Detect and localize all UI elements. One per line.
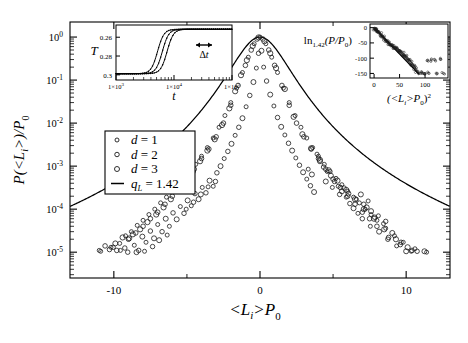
inset-left-point [162,64,163,65]
inset-left-point [199,29,200,30]
inset-left-point [166,52,167,53]
inset-right-x-tick-label: 0 [372,81,376,89]
inset-left-point [176,30,177,31]
inset-left-point [211,29,212,30]
x-tick-label: -10 [107,284,122,296]
inset-left-point [227,29,228,30]
inset-left-y-tick-label: 0.3 [103,72,112,80]
data-point [259,48,264,53]
data-point [301,170,306,175]
data-point [262,65,266,69]
inset-right-y-tick-label: -150 [355,70,367,77]
data-point [233,133,237,137]
data-point [357,201,361,205]
y-tick-label: 100 [49,30,64,43]
inset-left-point [184,29,185,30]
inset-left-point [156,71,157,72]
inset-left-point [168,30,169,31]
data-point [198,192,203,197]
inset-left-point [186,29,187,30]
inset-left-point [164,43,165,44]
inset-left-point [150,73,151,74]
inset-left-point [134,73,135,74]
data-point [229,141,234,146]
inset-left-point [156,54,157,55]
inset-left-point [213,29,214,30]
inset-right-x-tick-label: 100 [420,81,431,89]
data-point [206,185,210,189]
inset-left-point [158,70,159,71]
inset-left-point [119,73,120,74]
data-point [264,79,269,84]
inset-left-point [209,29,210,30]
inset-left-point [207,29,208,30]
data-point [299,125,303,129]
inset-left-point [115,73,116,74]
inset-left-point [203,29,204,30]
inset-left-point [148,71,149,72]
data-point [251,80,256,85]
data-point [254,66,258,70]
inset-left-point [217,29,218,30]
inset-left-point [172,30,173,31]
inset-left-y-tick-label: 0.28 [100,53,113,61]
y-tick-label: 10-4 [46,202,63,215]
y-tick-label: 10-2 [46,116,63,129]
data-point [200,185,204,189]
inset-left-point [138,73,139,74]
data-point [309,172,314,177]
data-point [290,148,295,153]
inset-left-point [197,29,198,30]
data-point [240,116,245,121]
inset-left-point [219,29,220,30]
inset-right-x-axis-label: (<Li>P0)2 [387,92,432,107]
data-point [141,224,146,229]
data-point [218,164,223,169]
data-point [138,227,143,232]
inset-left-point [164,59,165,60]
inset-left-point [150,69,151,70]
data-point [165,233,169,237]
data-point [294,156,298,160]
data-point [170,194,175,199]
data-point [362,202,367,207]
data-point [360,216,365,221]
data-point [375,224,380,229]
inset-left-point [160,41,161,42]
data-point [358,192,363,197]
inset-left-annotation: Δt [199,49,208,60]
data-point [159,201,163,205]
data-point [132,243,136,247]
data-point [312,190,317,195]
data-point [178,205,182,209]
data-point [286,141,291,146]
data-point [323,179,328,184]
data-point [191,200,196,205]
inset-left-point [166,38,167,39]
legend-label: d = 1 [131,132,158,147]
data-point [140,234,145,239]
inset-left-y-tick-label: 0.26 [100,34,113,42]
inset-left-y-axis-label: T [90,43,98,58]
data-point [356,211,360,215]
inset-left-point [154,72,155,73]
data-point [328,173,333,178]
inset-left-point [174,32,175,33]
data-point [150,244,155,249]
inset-left-point [156,67,157,68]
inset-left-point [162,36,163,37]
inset-right: 0-50-100-150050100ln1.42(P/P0)(<Li>P0)2 [304,24,448,107]
data-point [306,167,310,171]
inset-left-point [142,73,143,74]
data-point [297,163,302,168]
inset-right-x-tick-label: 50 [396,81,404,89]
data-point [368,224,372,228]
inset-left-point [215,29,216,30]
chart-svg: 10010-110-210-310-410-5-10010<Li>P0P(<Li… [0,0,468,343]
data-point [287,103,292,108]
inset-left-point [152,65,153,66]
data-point [157,238,162,243]
inset-left-point [166,31,167,32]
data-point [377,229,382,234]
inset-left-point [154,60,155,61]
